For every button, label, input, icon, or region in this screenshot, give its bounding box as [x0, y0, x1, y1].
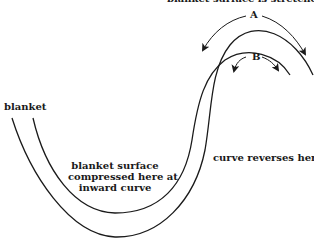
arc-a-left-arrow: [203, 16, 246, 50]
top-caption: blanket surface is stretched at: [167, 0, 314, 4]
compressed-line-1: blanket surface: [68, 160, 162, 171]
blanket-outer-curve: [12, 31, 313, 237]
arc-b-left-arrow: [234, 57, 246, 71]
arc-a-label: A: [250, 9, 258, 20]
blanket-diagram: [0, 0, 314, 245]
arc-b-label: B: [252, 51, 260, 62]
compressed-line-3: inward curve: [68, 182, 162, 193]
blanket-label: blanket: [4, 101, 46, 112]
arc-a-right-arrow: [262, 16, 305, 54]
compressed-line-2: compressed here at: [68, 171, 162, 182]
arc-b-right-arrow: [262, 57, 278, 70]
reverses-annotation: curve reverses here: [213, 152, 314, 163]
compressed-annotation: blanket surface compressed here at inwar…: [68, 160, 162, 193]
